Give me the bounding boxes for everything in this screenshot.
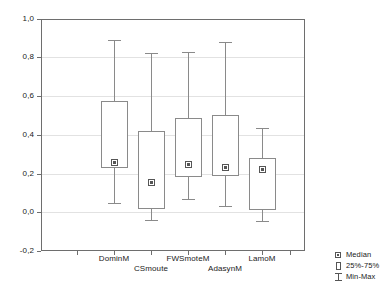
whisker-line-upper-csmoute	[151, 53, 152, 131]
median-marker-icon	[334, 250, 343, 259]
y-axis-label-0.8: 0,8	[0, 53, 34, 61]
legend-label-median: Median	[346, 251, 371, 259]
y-axis-label--0.2: -0,2	[0, 247, 34, 255]
whisker-cap-min-csmoute	[145, 220, 158, 221]
median-marker-fwsmotem	[185, 161, 192, 168]
x-axis-label-lamom: LamoM	[226, 254, 298, 263]
y-tick-0.6	[37, 96, 41, 97]
y-tick--0.2	[37, 251, 41, 252]
legend: Median 25%-75% Min-Max	[334, 249, 383, 282]
legend-label-iqr: 25%-75%	[346, 262, 379, 270]
legend-label-minmax: Min-Max	[346, 273, 375, 281]
legend-entry-minmax: Min-Max	[334, 271, 383, 282]
legend-entry-median: Median	[334, 249, 383, 260]
whisker-line-lower-lamom	[262, 210, 263, 221]
y-axis-label-1.0: 1,0	[0, 15, 34, 23]
median-marker-lamom	[259, 166, 266, 173]
minmax-whisker-icon	[334, 272, 343, 281]
iqr-box-fwsmotem	[175, 118, 202, 177]
boxplot-chart: 1,0 0,8 0,6 0,4 0,2 0,0 -0,2	[0, 0, 383, 287]
whisker-cap-min-lamom	[256, 221, 269, 222]
legend-entry-iqr: 25%-75%	[334, 260, 383, 271]
y-tick-0.0	[37, 212, 41, 213]
x-axis-label-adasynm: AdasynM	[189, 264, 261, 273]
y-axis-label-0.4: 0,4	[0, 131, 34, 139]
x-axis-label-fwsmotem: FWSmoteM	[152, 254, 224, 263]
whisker-cap-min-adasynm	[219, 206, 232, 207]
y-tick-0.8	[37, 57, 41, 58]
y-axis-label-0.6: 0,6	[0, 92, 34, 100]
y-tick-0.2	[37, 174, 41, 175]
whisker-line-upper-adasynm	[225, 42, 226, 115]
whisker-line-upper-fwsmotem	[188, 52, 189, 118]
plot-frame-top-border	[41, 19, 305, 20]
iqr-box-icon	[334, 261, 343, 270]
median-marker-dominm	[111, 159, 118, 166]
median-marker-csmoute	[148, 179, 155, 186]
iqr-box-dominm	[101, 101, 128, 168]
plot-frame-right-border	[304, 19, 305, 251]
iqr-box-csmoute	[138, 131, 165, 209]
whisker-line-lower-fwsmotem	[188, 177, 189, 199]
gridline-0.4	[42, 135, 304, 136]
median-marker-adasynm	[222, 164, 229, 171]
whisker-line-lower-csmoute	[151, 209, 152, 220]
whisker-cap-min-dominm	[108, 203, 121, 204]
x-axis-label-csmoute: CSmoute	[115, 264, 187, 273]
whisker-line-lower-adasynm	[225, 176, 226, 206]
gridline-0.0	[42, 212, 304, 213]
whisker-line-lower-dominm	[114, 168, 115, 203]
whisker-line-upper-lamom	[262, 128, 263, 158]
y-tick-0.4	[37, 135, 41, 136]
whisker-cap-min-fwsmotem	[182, 199, 195, 200]
y-tick-1.0	[37, 19, 41, 20]
y-axis-label-0.2: 0,2	[0, 170, 34, 178]
x-axis-label-dominm: DominM	[78, 254, 150, 263]
whisker-line-upper-dominm	[114, 40, 115, 101]
gridline-0.6	[42, 96, 304, 97]
y-axis-label-0.0: 0,0	[0, 208, 34, 216]
gridline-0.8	[42, 57, 304, 58]
